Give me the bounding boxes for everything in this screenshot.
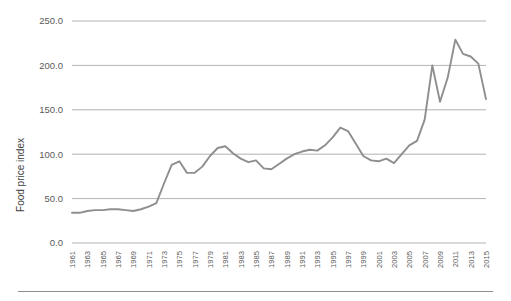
x-tick-label: 1975 (175, 251, 184, 268)
x-tick-label: 1973 (160, 251, 169, 268)
y-axis-title: Food price index (15, 138, 26, 212)
x-tick-label: 2003 (390, 251, 399, 268)
x-tick-label: 1983 (237, 251, 246, 268)
x-tick-label: 2011 (451, 251, 460, 267)
y-tick-label: 50.0 (45, 193, 64, 204)
x-tick-label: 1965 (99, 251, 108, 268)
x-tick-label: 1987 (267, 251, 276, 268)
x-tick-label: 1993 (313, 251, 322, 268)
x-tick-label: 2009 (436, 251, 445, 268)
x-tick-label: 1997 (344, 251, 353, 268)
x-tick-label: 1977 (191, 251, 200, 268)
x-tick-label: 1963 (83, 251, 92, 268)
x-tick-label: 1999 (359, 251, 368, 268)
x-tick-label: 1995 (329, 251, 338, 268)
x-tick-label: 1989 (283, 251, 292, 268)
x-tick-label: 1969 (129, 251, 138, 268)
food-price-index-chart: 250.0200.0150.0100.050.00.0 196119631965… (0, 0, 511, 301)
x-tick-label: 1981 (221, 251, 230, 268)
x-tick-label: 2001 (375, 251, 384, 268)
y-tick-label: 150.0 (39, 104, 63, 115)
x-tick-label: 1991 (298, 251, 307, 268)
x-tick-label: 1979 (206, 251, 215, 268)
chart-canvas: 250.0200.0150.0100.050.00.0 196119631965… (0, 0, 511, 301)
x-tick-label: 1971 (145, 251, 154, 268)
y-tick-label: 100.0 (39, 149, 63, 160)
y-tick-label: 250.0 (39, 15, 63, 26)
x-tick-label: 2015 (482, 251, 491, 268)
x-tick-label: 1967 (114, 251, 123, 268)
y-tick-label: 0.0 (50, 237, 63, 248)
x-tick-label: 2005 (405, 251, 414, 268)
x-tick-label: 2013 (467, 251, 476, 268)
x-tick-label: 2007 (421, 251, 430, 268)
x-tick-label: 1961 (68, 251, 77, 268)
y-tick-label: 200.0 (39, 60, 63, 71)
x-tick-label: 1985 (252, 251, 261, 268)
